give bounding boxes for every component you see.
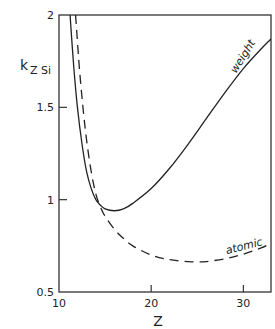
y-axis-label-subscript: Z Si: [30, 64, 51, 77]
y-tick-label: 0.5: [37, 286, 55, 299]
y-axis-label: k: [20, 57, 29, 73]
y-tick-label: 1: [47, 194, 54, 207]
chart: 1020300.511.52 k Z Si Z weight atomic: [0, 0, 275, 329]
ticks: 1020300.511.52: [37, 9, 251, 310]
series-line-weight: [70, 15, 271, 211]
y-tick-label: 1.5: [37, 101, 55, 114]
x-tick-label: 10: [52, 297, 66, 310]
x-tick-label: 30: [236, 297, 250, 310]
x-axis-label: Z: [153, 313, 163, 329]
x-tick-label: 20: [144, 297, 158, 310]
y-tick-label: 2: [47, 9, 54, 22]
